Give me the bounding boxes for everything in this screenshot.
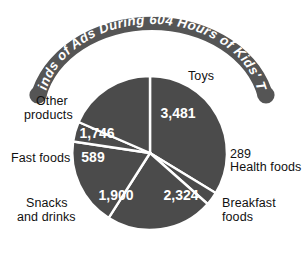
category-label-breakfast-foods-line1: Breakfast (222, 196, 276, 210)
category-label-other-products-line1: Other (36, 94, 68, 108)
category-label-snacks-line2: and drinks (17, 210, 76, 224)
value-label-other-products: 1,746 (79, 125, 114, 141)
category-label-health-foods: Health foods (230, 160, 304, 174)
pie-chart-figure: Kinds of Ads During 604 Hours of Kids' T… (0, 0, 304, 253)
value-label-toys: 3,481 (160, 105, 195, 121)
value-label-health-foods: 289 (230, 147, 300, 161)
category-label-breakfast-foods-line2: foods (222, 210, 253, 224)
value-label-snacks-and-drinks: 1,900 (98, 187, 133, 203)
value-label-breakfast-foods: 2,324 (163, 187, 198, 203)
category-label-fast-foods: Fast foods (11, 151, 70, 165)
category-label-other-products-line2: products (24, 108, 73, 122)
category-label-snacks-line1: Snacks (26, 196, 68, 210)
value-label-fast-foods: 589 (81, 149, 105, 165)
category-label-toys: Toys (188, 69, 214, 83)
